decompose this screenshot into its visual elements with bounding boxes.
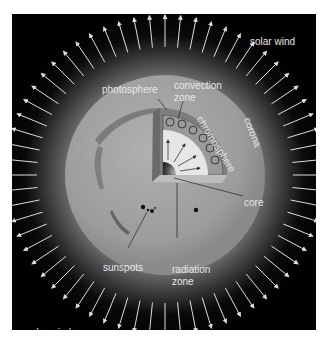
diagram-panel: solar wind solar wind photosphere convec…	[12, 14, 316, 330]
label-core: core	[244, 197, 263, 208]
label-sunspots: sunspots	[103, 262, 143, 273]
sun-diagram	[12, 14, 316, 330]
cutaway-side	[152, 108, 160, 182]
label-convection-zone-1: convection	[174, 80, 222, 91]
label-solar-wind-bottom: solar wind	[26, 327, 71, 330]
label-radiation-zone-2: zone	[172, 276, 194, 287]
label-solar-wind-top: solar wind	[250, 36, 295, 47]
label-photosphere: photosphere	[102, 84, 158, 95]
label-convection-zone-2: zone	[174, 92, 196, 103]
label-radiation-zone-1: radiation	[172, 264, 210, 275]
